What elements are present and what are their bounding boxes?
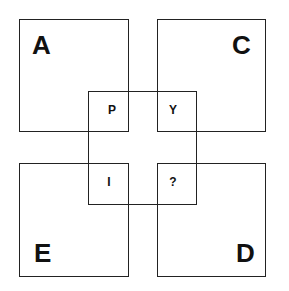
cell-p: P [102, 104, 122, 116]
cell-y: Y [163, 104, 183, 116]
label-d: D [236, 240, 255, 266]
cell-i: I [99, 176, 119, 188]
label-a: A [32, 32, 51, 58]
label-c: C [232, 32, 251, 58]
puzzle-diagram: A C E D P Y I ? [0, 0, 289, 291]
cell-question: ? [163, 176, 183, 188]
label-e: E [34, 240, 51, 266]
